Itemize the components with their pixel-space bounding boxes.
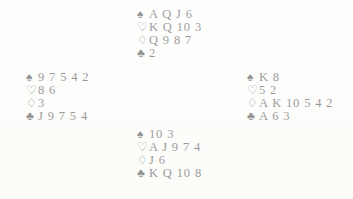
north-diamond-line: ♢ Q 9 8 7 [137,34,202,47]
club-icon: ♣ [247,110,258,123]
north-club-line: ♣ 2 [137,47,202,60]
hand-west: ♠ 9 7 5 4 2 ♡ 8 6 ♢ 3 ♣ J 9 7 5 4 [26,71,89,123]
east-club-ranks: A 6 3 [258,110,290,123]
south-club-line: ♣ K Q 10 8 [137,167,202,180]
north-club-ranks: 2 [148,47,156,60]
club-icon: ♣ [137,167,148,180]
west-club-ranks: J 9 7 5 4 [37,110,88,123]
club-icon: ♣ [26,110,37,123]
west-club-line: ♣ J 9 7 5 4 [26,110,89,123]
club-icon: ♣ [137,47,148,60]
east-club-line: ♣ A 6 3 [247,110,333,123]
hand-north: ♠ A Q J 6 ♡ K Q 10 3 ♢ Q 9 8 7 ♣ 2 [137,8,202,60]
south-club-ranks: K Q 10 8 [148,167,202,180]
hand-east: ♠ K 8 ♡ 5 2 ♢ A K 10 5 4 2 ♣ A 6 3 [247,71,333,123]
bridge-deal-diagram: ♠ A Q J 6 ♡ K Q 10 3 ♢ Q 9 8 7 ♣ 2 ♠ 9 7… [0,0,353,199]
hand-south: ♠ 10 3 ♡ A J 9 7 4 ♢ J 6 ♣ K Q 10 8 [137,128,202,180]
